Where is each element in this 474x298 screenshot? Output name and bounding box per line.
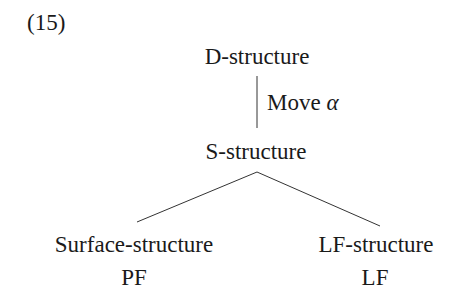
interface-pf: PF [121,266,147,289]
interface-lf: LF [362,266,389,289]
node-surface-structure: Surface-structure [55,233,213,256]
transformation-label: Move α [267,91,339,114]
node-lf-structure: LF-structure [319,233,434,256]
move-text: Move [267,90,321,115]
node-s-structure: S-structure [206,140,307,163]
branch-right-line [257,172,380,226]
alpha-symbol: α [326,90,338,115]
branch-left-line [137,172,257,222]
